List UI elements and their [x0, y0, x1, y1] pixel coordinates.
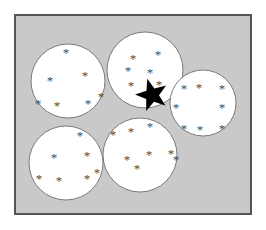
asterisk-glyph: * — [63, 45, 70, 60]
asterisk-glyph: * — [56, 173, 63, 188]
asterisk-glyph: * — [35, 96, 42, 111]
asterisk-glyph: * — [147, 119, 154, 134]
asterisk-glyph: * — [155, 47, 162, 62]
asterisk-glyph: * — [134, 161, 141, 176]
asterisk-glyph: * — [110, 127, 117, 142]
asterisk-glyph: * — [84, 171, 91, 186]
asterisk-glyph: * — [128, 78, 135, 93]
asterisk-glyph: * — [147, 65, 154, 80]
asterisk-glyph: * — [125, 63, 132, 78]
asterisk-glyph: * — [84, 148, 91, 163]
asterisk-glyph: * — [197, 122, 204, 137]
asterisk-glyph: * — [196, 80, 203, 95]
asterisk-glyph: * — [98, 89, 105, 104]
asterisk-glyph: * — [146, 147, 153, 162]
asterisk-glyph: * — [77, 128, 84, 143]
asterisk-glyph: * — [124, 152, 131, 167]
circle-bottom-left — [29, 126, 103, 200]
figure-root: ************************************ — [0, 0, 266, 230]
asterisk-glyph: * — [128, 124, 135, 139]
asterisk-glyph: * — [82, 68, 89, 83]
asterisk-glyph: * — [173, 152, 180, 167]
asterisk-glyph: * — [219, 81, 226, 96]
asterisk-glyph: * — [94, 165, 101, 180]
asterisk-glyph: * — [85, 96, 92, 111]
asterisk-glyph: * — [181, 81, 188, 96]
asterisk-glyph: * — [47, 73, 54, 88]
asterisk-glyph: * — [219, 100, 226, 115]
cluster-diagram: ************************************ — [0, 0, 266, 230]
asterisk-glyph: * — [51, 150, 58, 165]
asterisk-glyph: * — [181, 121, 188, 136]
asterisk-glyph: * — [219, 121, 226, 136]
asterisk-glyph: * — [36, 171, 43, 186]
asterisk-glyph: * — [54, 98, 61, 113]
asterisk-glyph: * — [173, 100, 180, 115]
